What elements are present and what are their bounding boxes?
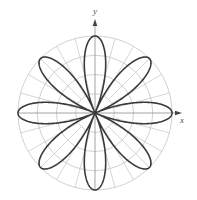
- y-axis-label: y: [92, 6, 97, 16]
- grid-ray: [114, 93, 170, 108]
- grid-ray: [75, 132, 90, 188]
- grid-ray: [75, 39, 90, 95]
- grid-ray: [21, 118, 77, 133]
- x-axis-label: x: [179, 115, 184, 125]
- polar-rose-chart: x y: [0, 0, 197, 200]
- grid-ray: [100, 132, 115, 188]
- grid-ray: [100, 39, 115, 95]
- grid-ray: [21, 93, 77, 108]
- y-axis-arrow-icon: [93, 19, 98, 26]
- grid-ray: [114, 118, 170, 133]
- axes: [18, 19, 182, 190]
